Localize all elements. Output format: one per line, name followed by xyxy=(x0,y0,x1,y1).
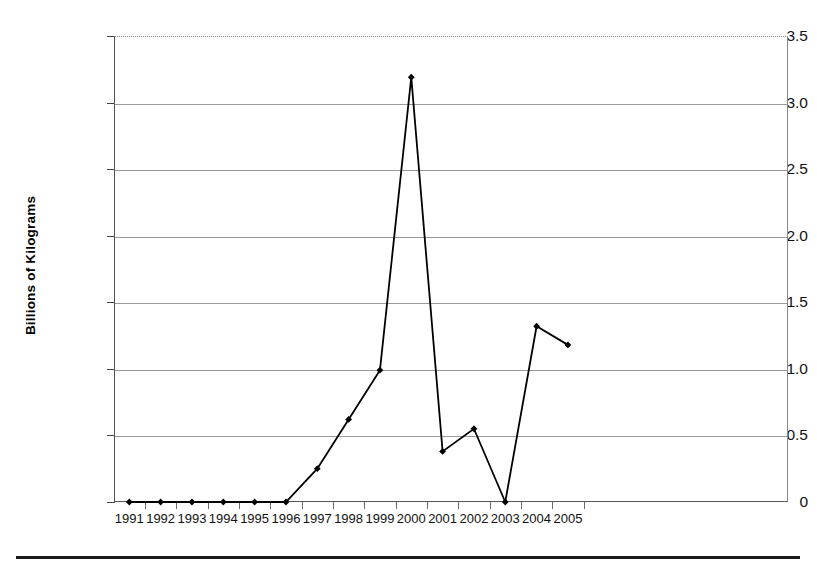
x-axis-tick-mark xyxy=(239,502,240,509)
bottom-horizontal-rule xyxy=(16,556,800,559)
x-axis-tick-mark xyxy=(396,502,397,509)
x-axis-tick-mark xyxy=(333,502,334,509)
gridline xyxy=(115,303,787,304)
x-axis-tick-label: 2005 xyxy=(545,511,591,526)
x-axis-tick-mark xyxy=(270,502,271,509)
gridline xyxy=(115,370,787,371)
x-axis-tick-mark xyxy=(208,502,209,509)
gridline xyxy=(115,170,787,171)
chart-figure: Billions of Kilograms 3.53.02.52.01.51.0… xyxy=(0,0,817,569)
gridline xyxy=(115,237,787,238)
x-axis-tick-mark xyxy=(490,502,491,509)
x-axis-tick-mark xyxy=(302,502,303,509)
plot-area xyxy=(114,36,788,502)
x-axis-tick-mark xyxy=(584,502,585,509)
x-axis-tick-mark xyxy=(458,502,459,509)
x-axis-tick-mark xyxy=(521,502,522,509)
gridline xyxy=(115,104,787,105)
x-axis-tick-mark xyxy=(427,502,428,509)
x-axis-tick-mark xyxy=(145,502,146,509)
x-axis-tick-mark xyxy=(176,502,177,509)
gridline xyxy=(115,436,787,437)
y-axis-tick-mark xyxy=(107,502,115,503)
x-axis-tick-mark xyxy=(552,502,553,509)
y-axis-title: Billions of Kilograms xyxy=(23,146,38,386)
x-axis-tick-mark xyxy=(364,502,365,509)
